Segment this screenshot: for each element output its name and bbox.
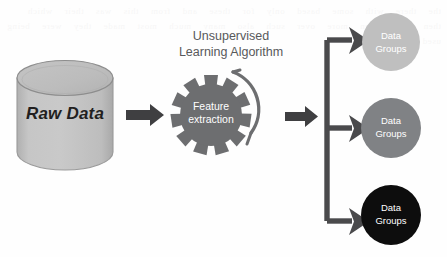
- arrow-right-icon-1: [126, 104, 164, 126]
- diagram-vector-layer: [0, 0, 447, 257]
- output-cluster-0: [362, 13, 420, 71]
- arrow-right-icon-2: [285, 106, 318, 127]
- output-cluster-1: [361, 98, 421, 158]
- database-cylinder-icon: [17, 61, 113, 171]
- branching-arrow-icon: [327, 40, 352, 221]
- diagram-canvas: the there with some based only for these…: [0, 0, 447, 257]
- gear-icon: [170, 75, 251, 155]
- output-cluster-2: [361, 185, 421, 245]
